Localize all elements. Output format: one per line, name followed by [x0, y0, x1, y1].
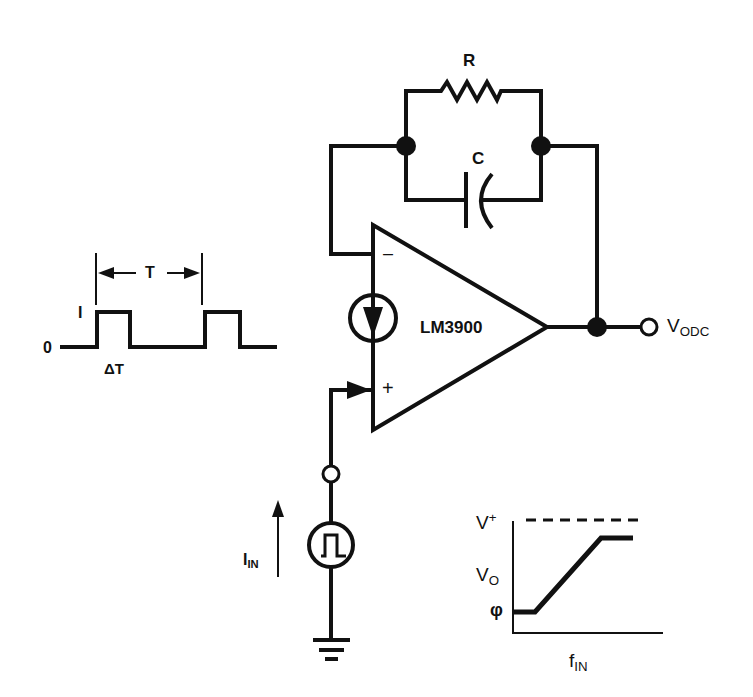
plot-x-label: fIN — [569, 651, 588, 673]
pulse-source-glyph — [321, 535, 346, 556]
circuit-diagram — [0, 0, 753, 697]
plot-y-label-main: V — [476, 564, 489, 585]
pulse-source-circle — [309, 523, 353, 567]
input-terminal-icon — [323, 466, 339, 482]
plot-y-label-sub: O — [489, 573, 499, 588]
output-label-main: V — [667, 315, 680, 336]
feedback-node-right — [531, 136, 551, 156]
supply-label-sup: + — [489, 510, 497, 525]
period-arrowhead-right-icon — [184, 267, 200, 279]
input-current-label: IIN — [243, 552, 259, 571]
supply-label: V+ — [476, 511, 496, 532]
capacitor-label: C — [472, 150, 484, 167]
waveform-high-label: I — [78, 305, 82, 321]
output-node — [587, 317, 607, 337]
current-source-arrow-icon — [363, 307, 383, 337]
input-label-sub: IN — [247, 558, 258, 570]
ground-icon — [313, 640, 350, 659]
waveform-low-label: 0 — [43, 340, 52, 356]
input-current-arrowhead-icon — [272, 500, 284, 517]
output-terminal-icon — [641, 319, 657, 335]
vo-transfer-curve — [513, 538, 633, 612]
noninverting-arrow-icon — [347, 381, 371, 399]
plot-axes — [513, 521, 663, 633]
resistor-label: R — [463, 52, 475, 69]
plot-y-label: VO — [476, 565, 499, 587]
period-label: T — [145, 265, 155, 281]
output-label: VODC — [667, 316, 709, 338]
period-arrowhead-left-icon — [98, 267, 114, 279]
pulse-width-label: ΔT — [104, 361, 124, 376]
pulse-waveform — [60, 312, 277, 347]
plot-x-label-sub: IN — [574, 659, 587, 674]
resistor-R — [406, 82, 541, 146]
opamp-label: LM3900 — [420, 319, 482, 336]
output-label-sub: ODC — [680, 324, 710, 339]
feedback-node-left — [396, 136, 416, 156]
noninverting-input-sign: + — [382, 378, 394, 398]
noninverting-input-wire — [331, 390, 373, 466]
feedback-right-wire — [541, 146, 597, 327]
plot-origin-label: φ — [490, 601, 503, 619]
supply-label-main: V — [476, 512, 489, 533]
inverting-input-sign: – — [383, 244, 393, 262]
